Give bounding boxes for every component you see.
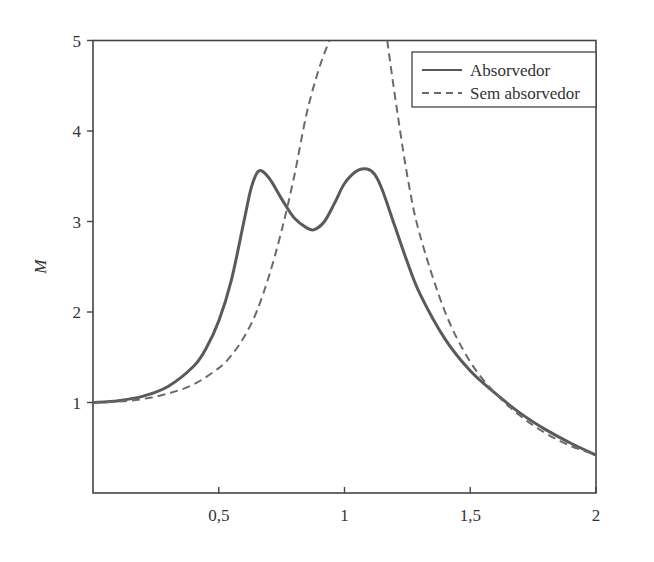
y-axis-label: M [31, 259, 50, 275]
y-tick-label: 3 [73, 213, 82, 232]
legend-label: Sem absorvedor [470, 84, 580, 103]
y-tick-label: 4 [73, 122, 82, 141]
legend-label: Absorvedor [470, 61, 551, 80]
y-tick-label: 1 [73, 394, 82, 413]
chart: 123450,511,52M AbsorvedorSem absorvedor [0, 0, 654, 562]
legend: AbsorvedorSem absorvedor [412, 52, 596, 107]
x-tick-label: 2 [592, 506, 601, 525]
x-tick-label: 1,5 [460, 506, 481, 525]
y-tick-label: 5 [73, 32, 82, 51]
plot-frame [93, 41, 596, 494]
x-tick-label: 1 [340, 506, 349, 525]
series-sem-absorvedor-line [93, 41, 329, 403]
x-tick-label: 0,5 [208, 506, 229, 525]
series-absorvedor-line [93, 169, 596, 455]
y-tick-label: 2 [73, 303, 82, 322]
